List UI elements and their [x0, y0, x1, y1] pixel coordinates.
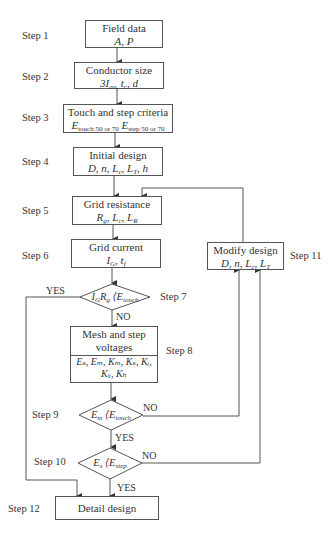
step-7-no-label: NO	[116, 311, 130, 322]
field-data-title: Field data	[86, 21, 162, 35]
modify-design-box: Modify design D, n, Lc, LT	[207, 242, 284, 270]
conductor-size-vars: 3Iao, tc, d	[75, 77, 163, 94]
step-9-no-label: NO	[143, 402, 157, 413]
field-data-vars: A, P	[86, 35, 162, 48]
step-4-label: Step 4	[22, 156, 49, 167]
conductor-size-box: Conductor size 3Iao, tc, d	[74, 62, 164, 89]
mesh-step-title-2: voltages	[71, 341, 157, 354]
step-10-label: Step 10	[34, 456, 66, 467]
step-5-label: Step 5	[22, 205, 49, 216]
mesh-step-title-1: Mesh and step	[71, 327, 157, 341]
step-9-label: Step 9	[32, 409, 59, 420]
step-6-label: Step 6	[22, 250, 49, 261]
field-data-box: Field data A, P	[85, 20, 163, 48]
decision-step-9: Em ⟨Etouch	[81, 408, 141, 422]
grid-resistance-title: Grid resistance	[73, 197, 161, 211]
step-3-label: Step 3	[22, 112, 49, 123]
initial-design-box: Initial design D, n, Lc, LT, h	[73, 147, 163, 176]
step-7-label: Step 7	[160, 291, 187, 302]
grid-current-title: Grid current	[72, 240, 160, 254]
step-10-no-label: NO	[142, 450, 156, 461]
conductor-size-title: Conductor size	[75, 63, 163, 77]
detail-design-title: Detail design	[78, 502, 136, 514]
modify-design-title: Modify design	[208, 243, 283, 257]
step-11-label: Step 11	[290, 250, 321, 261]
modify-design-vars: D, n, Lc, LT	[208, 257, 283, 274]
step-1-label: Step 1	[22, 30, 49, 41]
grid-current-vars: IG, tf	[72, 254, 160, 271]
step-12-label: Step 12	[8, 503, 40, 514]
detail-design-box: Detail design	[55, 496, 159, 520]
step-9-yes-label: YES	[115, 432, 134, 443]
initial-design-title: Initial design	[74, 148, 162, 162]
initial-design-vars: D, n, Lc, LT, h	[74, 162, 162, 179]
grid-resistance-vars: Rg, Lc, LR	[73, 211, 161, 228]
step-8-label: Step 8	[166, 345, 193, 356]
decision-step-10: Es ⟨Estep	[80, 456, 140, 470]
touch-step-criteria-box: Touch and step criteria Etouch 50 or 70 …	[63, 104, 173, 133]
grid-resistance-box: Grid resistance Rg, Lc, LR	[72, 196, 162, 225]
mesh-step-voltages-box: Mesh and step voltages Eₛ, Eₘ, Kₘ, Kₛ, K…	[70, 326, 158, 383]
touch-step-vars: Etouch 50 or 70 Estep 50 or 70	[64, 119, 172, 136]
decision-step-7: IGRg ⟨Etouch	[82, 290, 148, 304]
step-10-yes-label: YES	[117, 482, 136, 493]
step-7-yes-label: YES	[46, 285, 65, 296]
touch-step-title: Touch and step criteria	[64, 105, 172, 119]
mesh-step-vars-1: Eₛ, Eₘ, Kₘ, Kₛ, Kᵢ,	[71, 356, 157, 368]
step-2-label: Step 2	[22, 71, 49, 82]
grid-current-box: Grid current IG, tf	[71, 239, 161, 268]
mesh-step-vars-2: Kᵢᵢ, Kₕ	[71, 368, 157, 380]
